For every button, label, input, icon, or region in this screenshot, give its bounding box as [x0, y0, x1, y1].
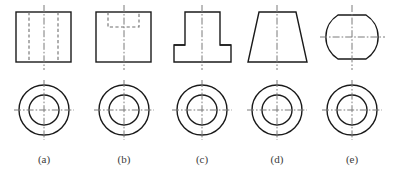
technical-drawing-figure: (a) (b) [0, 0, 395, 172]
front-view-a [16, 5, 71, 70]
top-view-e [322, 80, 382, 140]
column-d: (d) [247, 5, 307, 166]
front-view-c [174, 5, 231, 70]
caption-c: (c) [196, 153, 209, 166]
top-view-a [14, 80, 74, 140]
front-view-d [248, 5, 307, 70]
column-a: (a) [14, 5, 74, 166]
orthographic-views-svg: (a) (b) [0, 0, 395, 172]
front-view-e [320, 5, 385, 70]
top-view-c [172, 80, 232, 140]
top-view-d [247, 80, 307, 140]
caption-a: (a) [38, 153, 51, 166]
caption-e: (e) [346, 153, 359, 166]
column-b: (b) [94, 5, 154, 166]
top-view-b [94, 80, 154, 140]
caption-d: (d) [271, 153, 284, 166]
front-view-b [96, 5, 151, 70]
caption-b: (b) [118, 153, 131, 166]
column-e: (e) [320, 5, 385, 166]
column-c: (c) [172, 5, 232, 166]
